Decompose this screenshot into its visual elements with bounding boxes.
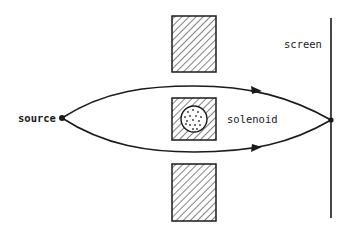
aharonov-bohm-diagram: source screen solenoid bbox=[0, 0, 351, 235]
upper-slab bbox=[172, 16, 216, 72]
source-point bbox=[59, 115, 65, 121]
convergence-point bbox=[328, 117, 333, 122]
lower-slab bbox=[172, 164, 216, 221]
screen-label: screen bbox=[284, 38, 322, 50]
solenoid-label: solenoid bbox=[227, 113, 278, 125]
solenoid-block bbox=[172, 98, 216, 140]
lower-arrow-icon bbox=[251, 144, 262, 152]
solenoid-core bbox=[181, 106, 207, 132]
source-label: source bbox=[18, 112, 56, 124]
